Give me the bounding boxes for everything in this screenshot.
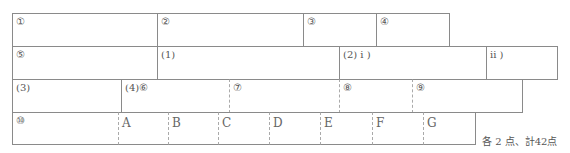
answer-box-label: ⑤ (16, 49, 25, 60)
answer-box-3[interactable]: ③ (303, 13, 377, 47)
answer-box-label: ① (16, 16, 25, 27)
answer-box-q2-ii[interactable]: ii ) (486, 46, 558, 80)
answer-box-label: (4)⑥ (125, 82, 148, 93)
score-note: 各 2 点、計42点 (482, 133, 557, 148)
answer-box-label: E (324, 116, 333, 130)
answer-box-8[interactable]: ⑧ (339, 79, 413, 113)
answer-box-q2-i[interactable]: (2) i ) (339, 46, 487, 80)
answer-box-label: (1) (161, 49, 175, 60)
answer-box-label: C (222, 116, 231, 130)
answer-box-label: G (427, 116, 437, 130)
answer-box-E[interactable]: E (320, 112, 373, 145)
answer-box-9[interactable]: ⑨ (412, 79, 523, 113)
answer-box-G[interactable]: G (423, 112, 476, 145)
answer-box-label: ⑦ (233, 82, 242, 93)
answer-box-F[interactable]: F (372, 112, 424, 145)
answer-box-label: ⑩ (16, 115, 25, 126)
answer-box-C[interactable]: C (218, 112, 270, 145)
answer-box-2[interactable]: ② (157, 13, 304, 47)
answer-box-D[interactable]: D (269, 112, 321, 145)
answer-box-B[interactable]: B (168, 112, 219, 145)
answer-box-label: (3) (16, 82, 30, 93)
answer-box-label: D (273, 116, 283, 130)
answer-box-label: ⑨ (416, 82, 425, 93)
answer-box-label: F (376, 116, 384, 130)
answer-box-q1[interactable]: (1) (157, 46, 340, 80)
answer-box-q3[interactable]: (3) (12, 79, 122, 113)
answer-box-label: ⑧ (343, 82, 352, 93)
answer-box-label: ii ) (490, 49, 503, 60)
answer-box-A[interactable]: A (118, 112, 169, 145)
answer-box-7[interactable]: ⑦ (229, 79, 340, 113)
answer-box-label: ③ (307, 16, 316, 27)
answer-box-label: ② (161, 16, 170, 27)
answer-box-q4-6[interactable]: (4)⑥ (121, 79, 230, 113)
answer-box-4[interactable]: ④ (376, 13, 450, 47)
answer-box-10[interactable]: ⑩ (12, 112, 119, 145)
answer-box-label: ④ (380, 16, 389, 27)
answer-box-label: (2) i ) (343, 49, 371, 60)
answer-box-5[interactable]: ⑤ (12, 46, 158, 80)
answer-box-label: B (172, 116, 181, 130)
answer-box-1[interactable]: ① (12, 13, 158, 47)
answer-box-label: A (122, 116, 131, 130)
